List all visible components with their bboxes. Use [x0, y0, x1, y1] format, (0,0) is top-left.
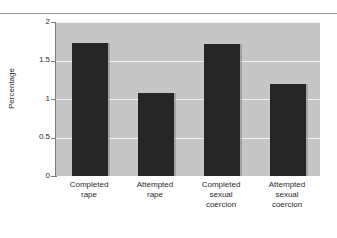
y-tick-mark-0 — [51, 176, 56, 177]
x-tick-label-attempted-sexual-coercion: Attempted sexual coercion — [254, 180, 320, 236]
x-tick-label-line: coercion — [254, 200, 320, 210]
x-tick-label-line: coercion — [188, 200, 254, 210]
x-tick-label-line: sexual — [254, 190, 320, 200]
y-axis-title: Percentage — [7, 54, 16, 124]
x-tick-label-attempted-rape: Attempted rape — [122, 180, 188, 236]
x-tick-label-line: Completed — [188, 180, 254, 190]
x-tick-label-completed-rape: Completed rape — [56, 180, 122, 236]
top-divider-rule — [0, 13, 337, 14]
bar-completed-rape — [72, 43, 108, 176]
x-tick-label-line: rape — [122, 190, 188, 200]
bar-attempted-rape — [138, 93, 174, 176]
y-tick-label-0: 0 — [4, 172, 50, 180]
y-tick-label-0-5: 0.5 — [4, 133, 50, 141]
x-axis-tick-labels: Completed rape Attempted rape Completed … — [56, 180, 320, 236]
y-tick-mark-2 — [51, 22, 56, 23]
x-tick-label-line: Completed — [56, 180, 122, 190]
x-tick-label-line: sexual — [188, 190, 254, 200]
gridline-2 — [56, 22, 320, 23]
x-tick-label-completed-sexual-coercion: Completed sexual coercion — [188, 180, 254, 236]
bar-completed-sexual-coercion — [204, 44, 240, 176]
y-tick-mark-1-5 — [51, 61, 56, 62]
y-tick-label-2: 2 — [4, 18, 50, 26]
y-tick-mark-1 — [51, 99, 56, 100]
plot-area — [56, 22, 320, 176]
chart-figure: 2 1.5 1 0.5 0 Percentage Completed rape … — [0, 0, 337, 238]
bar-attempted-sexual-coercion — [270, 84, 306, 176]
x-tick-label-line: Attempted — [254, 180, 320, 190]
y-tick-mark-0-5 — [51, 138, 56, 139]
x-tick-label-line: Attempted — [122, 180, 188, 190]
x-tick-label-line: rape — [56, 190, 122, 200]
